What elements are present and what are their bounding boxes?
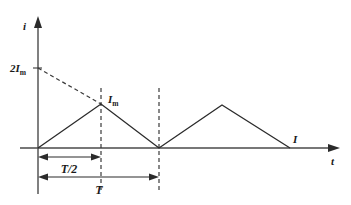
half-period-label: T/2 xyxy=(61,162,78,176)
half-period-left-arrow-icon xyxy=(38,154,48,161)
peak-value-label: Im xyxy=(107,93,119,108)
half-period-right-arrow-icon xyxy=(91,154,101,161)
mean-current-label: I xyxy=(292,133,298,145)
y-axis-label: i xyxy=(23,20,27,32)
waveform-trace-group xyxy=(38,104,290,148)
tick-label-subscript: m xyxy=(20,68,27,77)
period-right-arrow-icon xyxy=(149,174,159,181)
envelope-dashed-line xyxy=(38,68,101,104)
dimension-half-period-group: T/2 xyxy=(38,154,101,177)
triangular-waveform-trace xyxy=(38,104,290,148)
dimension-period-group: T xyxy=(38,174,159,198)
waveform-figure: T/2 T i t 2Im Im I xyxy=(0,0,351,205)
x-axis-label: t xyxy=(331,155,335,167)
period-label: T xyxy=(95,183,103,197)
peak-label-subscript: m xyxy=(112,99,119,108)
y-axis-tick-label-2im: 2Im xyxy=(9,62,27,77)
waveform-diagram: T/2 T i t 2Im Im I xyxy=(0,0,351,205)
dashed-guides-group xyxy=(38,68,159,192)
x-axis-arrow-icon xyxy=(328,144,340,152)
y-axis-arrow-icon xyxy=(34,16,42,28)
period-left-arrow-icon xyxy=(38,174,48,181)
